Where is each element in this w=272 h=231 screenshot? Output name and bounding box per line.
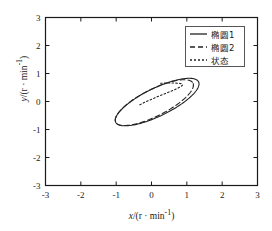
y-tick-label: -3 [33, 181, 41, 191]
legend-label: 椭圆2 [211, 41, 234, 53]
legend-item[interactable]: 状态 [186, 53, 244, 66]
y-axis-label-close: ) [19, 56, 29, 59]
legend-line-swatch [189, 55, 208, 65]
x-tick-label: 1 [185, 190, 190, 200]
y-tick-label: 2 [36, 41, 41, 51]
x-tick-label: -2 [77, 190, 85, 200]
legend-label: 状态 [211, 54, 229, 66]
x-tick-label: -3 [42, 190, 50, 200]
x-tick-label: -1 [112, 190, 120, 200]
y-tick-label: -1 [33, 125, 41, 135]
y-tick-label: 0 [36, 97, 41, 107]
x-axis-label-close: ) [171, 211, 174, 221]
x-tick-label: 2 [220, 190, 225, 200]
y-axis-label-var: y [19, 97, 29, 101]
chart-figure: -3-2-10123-3-2-10123 y/(r · min-1) x/(r … [0, 0, 272, 231]
legend-item[interactable]: 椭圆1 [186, 27, 244, 40]
y-axis-label-unit: /(r · min [19, 66, 29, 98]
legend-line-swatch [189, 29, 208, 39]
x-tick-label: 3 [255, 190, 260, 200]
legend-line-swatch [189, 42, 208, 52]
x-axis-label: x/(r · min-1) [45, 208, 258, 221]
y-axis-label-exponent: -1 [15, 59, 24, 66]
y-tick-label: -2 [33, 153, 41, 163]
y-axis-label: y/(r · min-1) [15, 19, 28, 139]
legend: 椭圆1椭圆2状态 [185, 26, 245, 67]
x-axis-label-unit: /(r · min [133, 211, 165, 221]
y-tick-label: 1 [36, 69, 41, 79]
x-tick-label: 0 [149, 190, 154, 200]
legend-label: 椭圆1 [211, 28, 234, 40]
y-tick-label: 3 [36, 13, 41, 23]
legend-item[interactable]: 椭圆2 [186, 40, 244, 53]
